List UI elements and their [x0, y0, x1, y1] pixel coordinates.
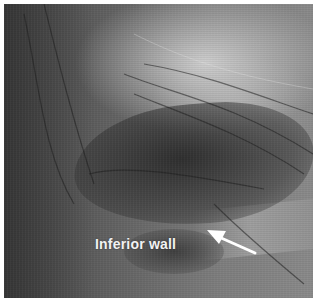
arrow-icon [4, 4, 313, 298]
angiogram-image: Inferior wall [4, 4, 313, 298]
